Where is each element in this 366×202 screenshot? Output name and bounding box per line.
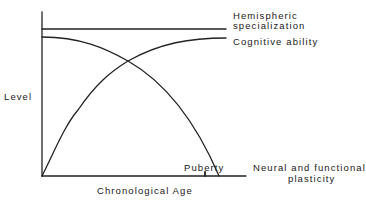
cognitive-ability-label: Cognitive ability	[233, 37, 318, 47]
neural-plasticity-label-line1: Neural and functional	[253, 163, 366, 173]
neural-plasticity-curve	[42, 37, 219, 176]
y-axis-label: Level	[4, 92, 32, 102]
neural-plasticity-label-line2: plasticity	[288, 174, 335, 184]
puberty-label: Puberty	[184, 163, 224, 173]
hemispheric-specialization-label-line2: specialization	[233, 21, 305, 31]
x-axis-label: Chronological Age	[97, 186, 193, 196]
cognitive-ability-curve	[42, 38, 226, 176]
